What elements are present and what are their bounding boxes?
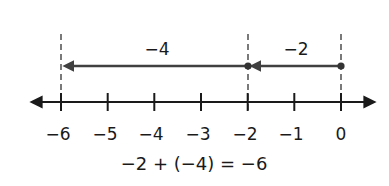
tick-label: 0 bbox=[336, 124, 347, 144]
move-arrows: −4 −2 bbox=[72, 39, 345, 70]
number-line-diagram: −4 −2 −6 −5 −4 −3 −2 −1 0 −2 + (−4) = −6 bbox=[0, 0, 389, 186]
equation: −2 + (−4) = −6 bbox=[121, 153, 268, 174]
tick-label: −2 bbox=[232, 124, 257, 144]
point-0 bbox=[337, 62, 344, 69]
tick-label: −5 bbox=[92, 124, 117, 144]
move-label-neg4: −4 bbox=[144, 39, 169, 59]
point-neg2 bbox=[244, 62, 251, 69]
tick-label: −4 bbox=[138, 124, 163, 144]
tick-label: −1 bbox=[278, 124, 303, 144]
number-line-axis: −6 −5 −4 −3 −2 −1 0 bbox=[36, 93, 370, 144]
move-label-neg2: −2 bbox=[283, 39, 308, 59]
tick-label: −6 bbox=[45, 124, 70, 144]
tick-labels: −6 −5 −4 −3 −2 −1 0 bbox=[45, 124, 346, 144]
tick-label: −3 bbox=[185, 124, 210, 144]
